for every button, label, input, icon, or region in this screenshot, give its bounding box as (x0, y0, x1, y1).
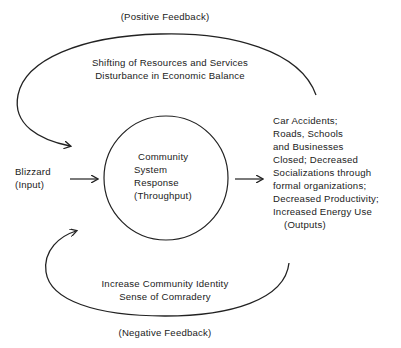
output-line: Socializations through (273, 166, 379, 179)
output-line: Car Accidents; (273, 114, 379, 127)
positive-feedback-label: (Positive Feedback) (110, 10, 220, 23)
input-label-2: (Input) (15, 178, 44, 191)
outputs-block: Car Accidents; Roads, Schools and Busine… (273, 114, 379, 231)
negative-feedback-arc (46, 231, 289, 316)
output-line: Increased Energy Use (273, 205, 379, 218)
throughput-label-1: Community (138, 150, 188, 163)
throughput-label-3: Response (134, 176, 179, 189)
outputs-label: (Outputs) (273, 218, 379, 231)
negative-feedback-text-2: Sense of Comradery (80, 290, 250, 303)
positive-feedback-text-1: Shifting of Resources and Services (70, 56, 270, 69)
input-label-1: Blizzard (15, 165, 51, 178)
output-line: Decreased Productivity; (273, 192, 379, 205)
output-line: and Businesses (273, 140, 379, 153)
output-line: Roads, Schools (273, 127, 379, 140)
output-line: Closed; Decreased (273, 153, 379, 166)
negative-feedback-text-1: Increase Community Identity (80, 277, 250, 290)
positive-feedback-text-2: Disturbance in Economic Balance (70, 69, 270, 82)
output-line: formal organizations; (273, 179, 379, 192)
negative-feedback-label: (Negative Feedback) (100, 326, 230, 339)
throughput-label-2: System (134, 163, 167, 176)
positive-feedback-arc (17, 34, 316, 146)
throughput-label-4: (Throughput) (134, 189, 192, 202)
